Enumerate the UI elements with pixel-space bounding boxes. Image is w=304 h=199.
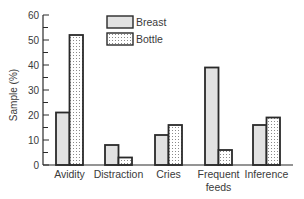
bar-group-inference (253, 118, 280, 166)
x-axis: AvidityDistractionCriesFrequentfeedsInfe… (43, 165, 293, 193)
y-tick-label: 20 (28, 110, 40, 121)
bar-bottle (70, 35, 84, 165)
bar-group-cries (155, 125, 182, 165)
y-tick-label: 0 (33, 160, 39, 171)
x-category-label: Cries (156, 168, 181, 180)
bar-breast (105, 145, 119, 165)
y-axis: 0102030405060 (28, 10, 49, 171)
bar-group-avidity (56, 35, 83, 165)
y-tick-label: 40 (28, 60, 40, 71)
legend-swatch-breast (107, 16, 133, 28)
y-axis-title: Sample (%) (8, 69, 19, 121)
bar-breast (205, 68, 219, 166)
x-category-label: Inference (245, 168, 289, 180)
legend-label: Bottle (136, 33, 163, 45)
bar-bottle (169, 125, 183, 165)
y-tick-label: 10 (28, 135, 40, 146)
x-category-label: Distraction (94, 168, 144, 180)
bar-bottle (219, 150, 233, 165)
bar-group-frequent-feeds (205, 68, 232, 166)
bar-bottle (267, 118, 281, 166)
y-tick-label: 30 (28, 85, 40, 96)
legend-swatch-bottle (107, 33, 133, 45)
x-category-label: Avidity (54, 168, 85, 180)
x-category-label: Frequent (197, 168, 239, 180)
y-tick-label: 50 (28, 35, 40, 46)
legend-item-bottle: Bottle (107, 33, 163, 45)
legend-label: Breast (136, 16, 166, 28)
bar-chart: 0102030405060 AvidityDistractionCriesFre… (0, 0, 304, 199)
bar-breast (56, 113, 70, 166)
bar-breast (155, 135, 169, 165)
legend: BreastBottle (107, 16, 166, 45)
bar-bottle (119, 158, 133, 166)
legend-item-breast: Breast (107, 16, 166, 28)
bar-group-distraction (105, 145, 132, 165)
bar-breast (253, 125, 267, 165)
x-category-label: feeds (206, 181, 232, 193)
bars (56, 35, 280, 165)
y-tick-label: 60 (28, 10, 40, 21)
